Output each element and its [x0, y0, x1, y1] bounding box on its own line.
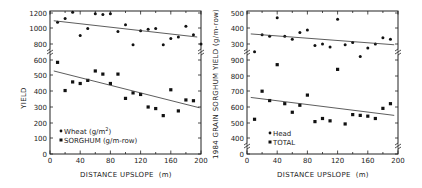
data-point	[253, 118, 256, 121]
data-point	[64, 89, 67, 92]
data-point	[344, 122, 347, 125]
left-y-axis-title: YIELD	[20, 87, 28, 110]
data-point	[329, 46, 332, 49]
x-tick-label: 0	[48, 157, 52, 165]
data-point	[200, 43, 203, 46]
wheat-marker-icon	[60, 130, 63, 133]
legend-sorghum: SORGHUM (g/m-row)	[64, 137, 138, 145]
data-point	[71, 80, 74, 83]
y-tick-label: 300	[34, 104, 47, 112]
x-tick-label: 200	[391, 157, 404, 165]
y-tick-label: 400	[231, 25, 244, 33]
data-point	[328, 119, 331, 122]
x-tick-label: 200	[194, 157, 207, 165]
left-data-points	[56, 11, 203, 117]
total-marker-icon	[269, 141, 272, 144]
x-tick-label: 120	[134, 157, 147, 165]
data-point	[131, 91, 134, 94]
data-point	[154, 107, 157, 110]
data-point	[116, 30, 119, 33]
head-marker-icon	[269, 132, 272, 135]
data-point	[79, 34, 82, 37]
y-tick-label: 500	[34, 72, 47, 80]
x-tick-label: 160	[164, 157, 177, 165]
y-tick-label: 0	[43, 151, 47, 159]
data-point	[132, 43, 135, 46]
right-legend: Head TOTAL	[269, 130, 296, 147]
x-tick-label: 120	[331, 157, 344, 165]
data-point	[359, 114, 362, 117]
data-point	[101, 73, 104, 76]
x-tick-label: 80	[106, 157, 115, 165]
data-point	[389, 102, 392, 105]
y-tick-label: 200	[34, 120, 47, 128]
right-trendlines	[251, 34, 394, 115]
data-point	[124, 23, 127, 26]
legend-total: TOTAL	[272, 139, 295, 147]
legend-wheat: Wheat (g/m2)	[64, 126, 111, 136]
data-point	[154, 27, 157, 30]
left-trendlines	[54, 21, 200, 108]
left-x-axis-title: DISTANCE UPSLOPE (m)	[80, 171, 172, 179]
data-point	[177, 36, 180, 39]
data-point	[344, 43, 347, 46]
y-tick-label: 300	[231, 41, 244, 49]
data-point	[306, 94, 309, 97]
right-chart-panel: 5004003009008007006005004000 04080120160…	[212, 9, 405, 179]
y-tick-label: 400	[34, 88, 47, 96]
data-point	[177, 109, 180, 112]
data-point	[381, 36, 384, 39]
data-point	[336, 18, 339, 21]
data-point	[253, 50, 256, 53]
y-tick-label: 600	[231, 104, 244, 112]
x-tick-label: 0	[245, 157, 249, 165]
data-point	[276, 63, 279, 66]
left-legend: Wheat (g/m2) SORGHUM (g/m-row)	[60, 126, 138, 145]
data-point	[116, 73, 119, 76]
data-point	[321, 117, 324, 120]
y-tick-label: 900	[231, 57, 244, 65]
data-point	[169, 88, 172, 91]
data-point	[283, 102, 286, 105]
y-tick-label: 600	[34, 57, 47, 65]
chart-figure: 120010008006005004003002001000 040801201…	[0, 0, 422, 188]
x-tick-label: 80	[303, 157, 312, 165]
data-point	[313, 120, 316, 123]
y-tick-label: 100	[34, 135, 47, 143]
data-point	[94, 69, 97, 72]
y-tick-label: 400	[231, 135, 244, 143]
data-point	[56, 61, 59, 64]
sorghum-marker-icon	[60, 139, 63, 142]
right-y-axis: 5004003009008007006005004000	[231, 10, 401, 159]
data-point	[298, 31, 301, 34]
trendline	[251, 97, 394, 115]
data-point	[86, 27, 89, 30]
data-point	[291, 111, 294, 114]
y-tick-label: 0	[240, 151, 244, 159]
data-point	[291, 38, 294, 41]
data-point	[147, 28, 150, 31]
data-point	[192, 33, 195, 36]
data-point	[366, 115, 369, 118]
data-point	[101, 13, 104, 16]
right-y-axis-title: 1984 GRAIN SORGHUM YIELD (g/m-row)	[212, 9, 220, 159]
data-point	[336, 68, 339, 71]
data-point	[374, 117, 377, 120]
data-point	[366, 46, 369, 49]
data-point	[261, 90, 264, 93]
right-data-points	[253, 16, 392, 125]
data-point	[276, 16, 279, 19]
data-point	[147, 105, 150, 108]
data-point	[313, 44, 316, 47]
data-point	[381, 107, 384, 110]
y-tick-label: 700	[231, 88, 244, 96]
y-tick-label: 800	[34, 41, 47, 49]
y-tick-label: 800	[231, 73, 244, 81]
data-point	[71, 11, 74, 14]
data-point	[79, 82, 82, 85]
data-point	[162, 43, 165, 46]
data-point	[124, 97, 127, 100]
data-point	[169, 37, 172, 40]
data-point	[64, 17, 67, 20]
data-point	[321, 43, 324, 46]
